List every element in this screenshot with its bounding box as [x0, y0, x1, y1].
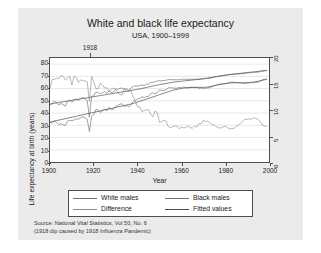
- x-axis-tick-label: 1940: [124, 167, 150, 174]
- right-axis-tick-label: 15: [273, 77, 282, 89]
- series-line: [50, 70, 267, 104]
- chart-title: White and black life expectancy: [18, 17, 303, 29]
- chart-lines: [50, 58, 269, 162]
- legend-label: Fitted values: [193, 205, 232, 212]
- y-axis-tick-label: 0: [28, 159, 48, 166]
- right-axis-tick-label: 5: [273, 130, 282, 142]
- chart-subtitle: USA, 1900–1999: [18, 31, 303, 40]
- right-axis-tick-label: 20: [273, 50, 282, 62]
- x-axis-tick: [182, 163, 183, 166]
- y-axis: 01020304050607080: [23, 57, 48, 163]
- source-note-1: Source: National Vital Statistics, Vol 5…: [34, 220, 284, 228]
- x-axis-tick: [137, 163, 138, 166]
- x-axis-tick: [49, 163, 50, 166]
- legend-swatch: [73, 198, 97, 199]
- y-axis-tick-label: 40: [28, 109, 48, 116]
- chart-legend: White malesBlack malesDifferenceFitted v…: [68, 190, 253, 217]
- right-axis-tick-label: 10: [273, 103, 282, 115]
- series-line: [50, 79, 267, 131]
- y-axis-tick-label: 80: [28, 59, 48, 66]
- source-notes: Source: National Vital Statistics, Vol 5…: [34, 220, 284, 235]
- y-axis-tick-label: 20: [28, 134, 48, 141]
- legend-label: Difference: [101, 205, 132, 212]
- figure-panel: White and black life expectancy USA, 190…: [18, 8, 303, 240]
- x-axis-tick: [226, 163, 227, 166]
- x-axis-tick-label: 1900: [36, 167, 62, 174]
- plot-area: [49, 57, 270, 163]
- legend-label: Black males: [193, 194, 230, 201]
- x-axis-tick-label: 1920: [80, 167, 106, 174]
- y-axis-tick-label: 60: [28, 84, 48, 91]
- legend-swatch: [73, 209, 97, 210]
- gridlines: [50, 64, 269, 150]
- legend-swatch: [165, 198, 189, 199]
- x-axis-tick: [270, 163, 271, 166]
- x-axis-tick-label: 2000: [257, 167, 283, 174]
- y-axis-tick-label: 10: [28, 147, 48, 154]
- right-axis: 05101520: [270, 57, 300, 163]
- series-line: [50, 76, 267, 129]
- y-axis-tick-label: 30: [28, 122, 48, 129]
- x-axis-tick-label: 1960: [169, 167, 195, 174]
- y-axis-tick-label: 70: [28, 72, 48, 79]
- annotation-1918-label: 1918: [70, 44, 110, 51]
- legend-label: White males: [101, 194, 138, 201]
- series-line: [50, 71, 267, 117]
- x-axis-tick: [93, 163, 94, 166]
- y-axis-tick-label: 50: [28, 97, 48, 104]
- x-axis-title: Year: [49, 177, 270, 184]
- legend-swatch: [165, 209, 189, 210]
- x-axis-tick-label: 1980: [213, 167, 239, 174]
- source-note-2: (1918 dip caused by 1918 Influenza Pande…: [34, 228, 284, 236]
